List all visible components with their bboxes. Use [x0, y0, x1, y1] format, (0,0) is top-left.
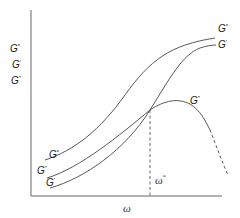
label-g-double-prime-left: G″ [37, 166, 47, 176]
label-g-prime-left: G′ [46, 178, 55, 188]
curve-g-double-prime-dashed [210, 130, 228, 175]
curve-g-prime [50, 45, 216, 188]
label-g-prime-right: G′ [218, 40, 227, 50]
label-omega-star: ω* [155, 175, 166, 186]
y-label-g-double-prime: G″ [11, 76, 21, 86]
y-label-g-star: G* [10, 44, 20, 54]
label-g-star-left: G* [49, 150, 59, 160]
label-g-star-right: G* [218, 24, 228, 34]
rheology-chart [0, 0, 240, 218]
x-axis-label-omega: ω [123, 203, 131, 214]
label-g-double-prime-peak: G″ [190, 96, 200, 106]
curve-g-double-prime [47, 101, 210, 178]
y-label-g-prime: G′ [12, 60, 21, 70]
